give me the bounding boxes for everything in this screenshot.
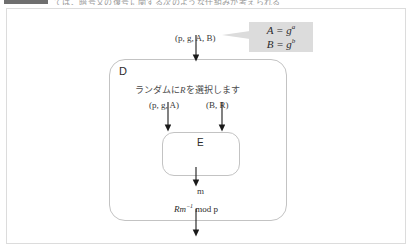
diagram-panel: A = ga B = gb (p, g, A, B) D ランダムにRを選択しま… xyxy=(6,8,406,244)
label-formula-rm-inverse-mod-p: Rm−1 mod p xyxy=(174,203,218,214)
outer-box-label-d: D xyxy=(119,65,127,77)
header-color-swatch xyxy=(4,0,48,4)
inner-box-label-e: E xyxy=(197,137,204,148)
instruction-text-random-r: ランダムにRを選択します xyxy=(135,83,240,96)
page-header-strip: ては、暗号文の復号に関する次のような仕組みが考えられる xyxy=(0,0,415,5)
label-branch-left-tuple: (p, g, A) xyxy=(149,100,179,110)
callout-box-key-definitions: A = ga B = gb xyxy=(249,22,313,52)
label-branch-right-tuple: (B, R) xyxy=(206,100,229,110)
label-input-tuple-top: (p, g, A, B) xyxy=(175,33,216,43)
label-output-m: m xyxy=(197,186,204,196)
callout-line-a: A = ga xyxy=(267,24,295,36)
callout-pointer-icon xyxy=(222,31,250,39)
callout-line-b: B = gb xyxy=(267,38,296,50)
header-caption-text: ては、暗号文の復号に関する次のような仕組みが考えられる xyxy=(54,0,281,5)
